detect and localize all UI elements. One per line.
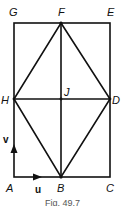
vertex-dots (13, 21, 112, 178)
label-D: D (112, 94, 120, 106)
label-A: A (5, 182, 13, 194)
arrow-u-icon (33, 174, 42, 181)
rhombus-FDBH (14, 23, 110, 177)
label-E: E (107, 6, 115, 18)
label-vector-v: v (3, 134, 9, 145)
label-B: B (57, 182, 64, 194)
figure-lines (14, 23, 110, 177)
figure-caption: Fig. 49.7 (45, 198, 80, 206)
geometry-figure: G F E H J D A B C u v Fig. 49.7 (0, 0, 125, 206)
arrow-v-icon (11, 144, 18, 153)
label-C: C (106, 182, 114, 194)
outer-rectangle (14, 23, 110, 177)
label-F: F (58, 6, 66, 18)
label-G: G (9, 6, 18, 18)
label-H: H (1, 94, 9, 106)
vector-arrows (11, 144, 43, 181)
label-J: J (63, 86, 70, 98)
label-vector-u: u (35, 184, 41, 195)
